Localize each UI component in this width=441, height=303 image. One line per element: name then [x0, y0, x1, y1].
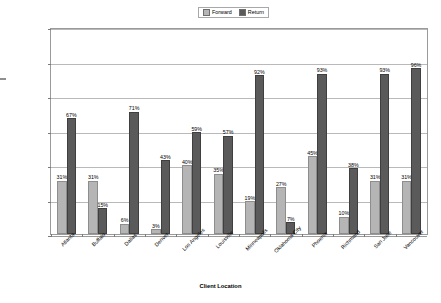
bar-slot: 31%	[370, 29, 380, 234]
bar-slot: 71%	[129, 29, 139, 234]
x-label-cell: Dallas	[113, 236, 145, 280]
bar-forward[interactable]: 40%	[182, 165, 192, 234]
bar-return[interactable]: 71%	[129, 112, 139, 234]
bar-group: 6%71%	[114, 29, 145, 234]
bar-return[interactable]: 67%	[67, 118, 77, 234]
bar-return[interactable]: 92%	[255, 75, 265, 234]
bar-slot: 93%	[317, 29, 327, 234]
legend-item-return: Return	[239, 9, 264, 16]
bar-value-label: 45%	[307, 151, 318, 156]
bar-value-label: 31%	[57, 175, 68, 180]
bar-slot: 10%	[339, 29, 349, 234]
bar-group: 40%59%	[176, 29, 207, 234]
bar-groups: 31%67%31%15%6%71%3%43%40%59%35%57%19%92%…	[51, 29, 427, 234]
x-axis-labels: AtlantaBuffaloDallasDenverLos AngelesLou…	[50, 236, 428, 280]
bar-slot: 93%	[380, 29, 390, 234]
x-label-cell: Louisville	[208, 236, 240, 280]
bar-value-label: 96%	[411, 63, 422, 68]
legend-item-forward: Forward	[203, 9, 232, 16]
bar-slot: 92%	[255, 29, 265, 234]
bar-value-label: 92%	[254, 70, 265, 75]
bar-group: 27%7%	[270, 29, 301, 234]
bar-value-label: 93%	[317, 68, 328, 73]
bar-slot: 67%	[67, 29, 77, 234]
x-label-cell: Richmond	[334, 236, 366, 280]
bar-slot: 31%	[57, 29, 67, 234]
x-label-cell: San Jose	[365, 236, 397, 280]
legend-label-forward: Forward	[212, 10, 232, 15]
bar-return[interactable]: 59%	[192, 132, 202, 234]
bar-group: 31%96%	[396, 29, 427, 234]
bar-value-label: 27%	[276, 182, 287, 187]
legend-label-return: Return	[248, 10, 264, 15]
bar-return[interactable]: 96%	[411, 68, 421, 234]
x-label-cell: Denver	[145, 236, 177, 280]
bar-group: 19%92%	[239, 29, 270, 234]
bar-group: 35%57%	[208, 29, 239, 234]
bar-forward[interactable]: 45%	[308, 156, 318, 234]
bar-forward[interactable]: 3%	[151, 229, 161, 234]
bar-value-label: 6%	[121, 218, 129, 223]
bar-value-label: 3%	[152, 224, 160, 229]
bar-forward[interactable]: 6%	[120, 224, 130, 234]
x-label-cell: Los Angeles	[176, 236, 208, 280]
bar-return[interactable]: 93%	[380, 74, 390, 234]
bar-group: 31%93%	[364, 29, 395, 234]
bar-return[interactable]: 43%	[161, 160, 171, 234]
bar-slot: 15%	[98, 29, 108, 234]
bar-value-label: 59%	[191, 127, 202, 132]
x-label-cell: Oklahoma City	[271, 236, 303, 280]
bar-value-label: 35%	[213, 168, 224, 173]
x-label-cell: Phoenix	[302, 236, 334, 280]
x-label-cell: Buffalo	[82, 236, 114, 280]
bar-value-label: 31%	[88, 175, 99, 180]
bar-value-label: 19%	[245, 196, 256, 201]
x-label-cell: Atlanta	[50, 236, 82, 280]
bar-slot: 96%	[411, 29, 421, 234]
bar-value-label: 93%	[379, 68, 390, 73]
bar-group: 45%93%	[302, 29, 333, 234]
bar-slot: 27%	[276, 29, 286, 234]
bar-group: 31%67%	[51, 29, 82, 234]
x-axis-title: Client Location	[0, 284, 441, 290]
legend-swatch-return-icon	[239, 9, 246, 16]
bar-forward[interactable]: 31%	[57, 181, 67, 234]
bar-value-label: 40%	[182, 160, 193, 165]
bar-return[interactable]: 93%	[317, 74, 327, 234]
bar-forward[interactable]: 27%	[276, 187, 286, 234]
bar-value-label: 71%	[129, 106, 140, 111]
bar-slot: 3%	[151, 29, 161, 234]
bar-return[interactable]: 38%	[349, 168, 359, 234]
bar-forward[interactable]: 31%	[402, 181, 412, 234]
bar-value-label: 31%	[370, 175, 381, 180]
bar-slot: 45%	[308, 29, 318, 234]
edge-artifact	[0, 78, 6, 80]
bar-return[interactable]: 57%	[223, 136, 233, 234]
legend-swatch-forward-icon	[203, 9, 210, 16]
bar-value-label: 57%	[223, 130, 234, 135]
bar-forward[interactable]: 19%	[245, 201, 255, 234]
plot-area: 0%20%40%60%80%100%120% 31%67%31%15%6%71%…	[50, 28, 428, 235]
bar-group: 31%15%	[82, 29, 113, 234]
bar-slot: 38%	[349, 29, 359, 234]
bar-slot: 59%	[192, 29, 202, 234]
bar-value-label: 67%	[66, 113, 77, 118]
bar-return[interactable]: 15%	[98, 208, 108, 234]
x-label-cell: Vancouver	[397, 236, 429, 280]
bar-value-label: 43%	[160, 155, 171, 160]
bar-value-label: 10%	[339, 211, 350, 216]
bar-chart: Forward Return Percent Utilization 0%20%…	[0, 0, 441, 303]
bar-forward[interactable]: 10%	[339, 217, 349, 234]
bar-forward[interactable]: 31%	[370, 181, 380, 234]
bar-slot: 43%	[161, 29, 171, 234]
bar-forward[interactable]: 35%	[214, 174, 224, 234]
bar-value-label: 7%	[287, 217, 295, 222]
chart-legend: Forward Return	[198, 7, 269, 18]
bar-value-label: 31%	[401, 175, 412, 180]
bar-slot: 7%	[286, 29, 296, 234]
x-label-cell: Minneapolis	[239, 236, 271, 280]
bar-group: 3%43%	[145, 29, 176, 234]
bar-slot: 6%	[120, 29, 130, 234]
bar-value-label: 15%	[97, 203, 108, 208]
bar-value-label: 38%	[348, 163, 359, 168]
